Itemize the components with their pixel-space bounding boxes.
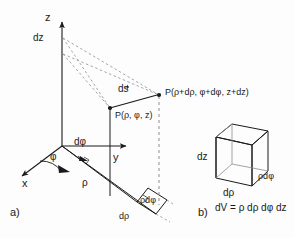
label-drho-panel-a: dρ	[119, 212, 129, 221]
label-ds-vector: d s	[118, 84, 129, 94]
panel-b-tag: b)	[198, 207, 208, 218]
vector-arrow-icon	[124, 84, 129, 89]
label-dphi: dφ	[74, 137, 86, 147]
point-label-inner: P(ρ, φ, z)	[115, 111, 152, 120]
phi-arc-arrowhead	[58, 165, 70, 173]
cube-inner-edges	[216, 124, 268, 178]
panel-a-tag: a)	[10, 207, 20, 218]
point-dot-inner	[108, 106, 112, 110]
label-dz-panel-b: dz	[197, 152, 208, 162]
label-phi: φ	[50, 152, 56, 162]
volume-element-formula: dV = ρ dρ dφ dz	[215, 203, 287, 213]
ds-vector	[110, 95, 157, 108]
point-dot-outer	[157, 93, 161, 97]
axis-label-y: y	[113, 152, 119, 163]
point-label-outer: P(ρ+dρ, φ+dφ, z+dz)	[165, 88, 249, 97]
label-rho-dphi-panel-a: ρdφ	[140, 196, 156, 205]
cylindrical-coordinates-figure: z y x dz φ dφ ρ dρ ρdφ d s P(ρ+dρ, φ+dφ,…	[0, 0, 295, 238]
dashed-guides-to-points	[63, 38, 159, 108]
label-rho: ρ	[82, 178, 88, 188]
label-dz-panel-a: dz	[33, 33, 44, 43]
axis-label-z: z	[45, 12, 51, 23]
label-drho-panel-b: dρ	[223, 188, 234, 198]
axis-label-x: x	[22, 178, 28, 189]
label-rho-dphi-panel-b: ρdφ	[258, 172, 274, 181]
